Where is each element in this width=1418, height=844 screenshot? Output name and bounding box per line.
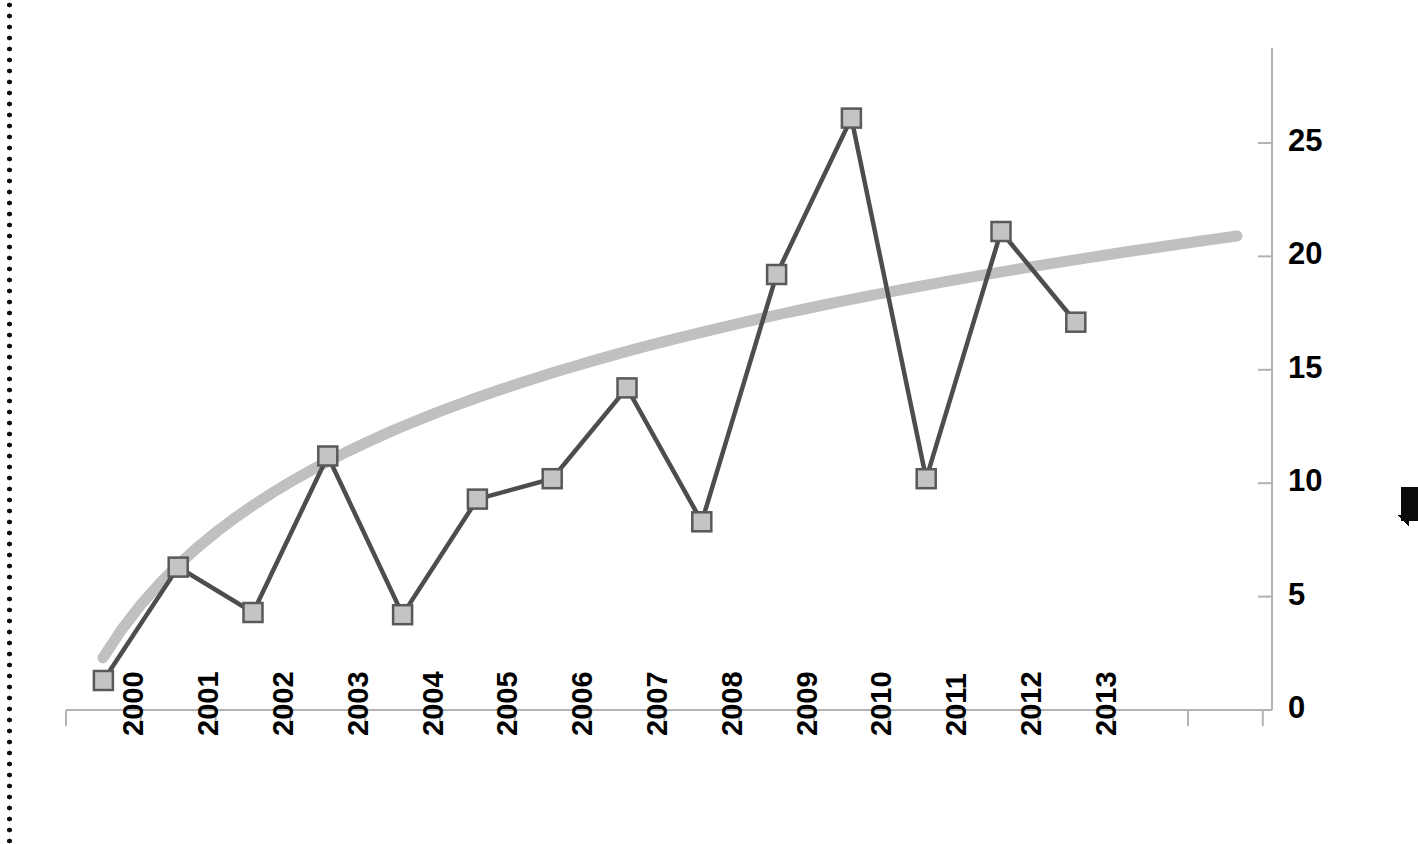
data-point-marker	[468, 490, 487, 509]
data-series-line	[103, 118, 1075, 680]
x-axis-tick-label: 2013	[1090, 671, 1123, 736]
x-axis-tick-label: 2008	[716, 671, 749, 736]
y-axis-tick-label: 10	[1288, 463, 1322, 499]
data-point-marker	[917, 469, 936, 488]
data-point-marker	[94, 671, 113, 690]
data-point-marker	[842, 109, 861, 128]
y-axis-tick-label: 0	[1288, 690, 1305, 726]
x-axis-tick-label: 2002	[267, 671, 300, 736]
data-series-markers	[94, 109, 1085, 690]
x-axis-tick-label: 2006	[566, 671, 599, 736]
x-axis-tick-label: 2011	[940, 673, 973, 736]
trendline	[103, 236, 1237, 658]
data-point-marker	[393, 605, 412, 624]
data-point-marker	[692, 512, 711, 531]
chart-container: 0510152025 20002001200220032004200520062…	[0, 0, 1418, 844]
x-axis-tick-label: 2009	[791, 671, 824, 736]
x-axis-tick-label: 2005	[491, 671, 524, 736]
data-point-marker	[767, 265, 786, 284]
x-axis-tick-label: 2012	[1015, 671, 1048, 736]
x-axis-tick-label: 2007	[641, 671, 674, 736]
data-point-marker	[618, 378, 637, 397]
data-point-marker	[244, 603, 263, 622]
data-point-marker	[992, 222, 1011, 241]
x-axis-tick-label: 2000	[117, 671, 150, 736]
data-point-marker	[318, 447, 337, 466]
data-point-marker	[1066, 313, 1085, 332]
data-point-marker	[169, 558, 188, 577]
x-axis-tick-label: 2003	[342, 671, 375, 736]
x-axis-tick-label: 2010	[865, 671, 898, 736]
y-axis-tick-label: 15	[1288, 350, 1322, 386]
data-point-marker	[543, 469, 562, 488]
x-axis-tick-label: 2004	[417, 671, 450, 736]
y-axis-ticks	[1258, 143, 1272, 710]
x-axis-tick-label: 2001	[192, 671, 225, 736]
y-axis-tick-label: 5	[1288, 577, 1305, 613]
y-axis-tick-label: 25	[1288, 123, 1322, 159]
y-axis-tick-label: 20	[1288, 236, 1322, 272]
